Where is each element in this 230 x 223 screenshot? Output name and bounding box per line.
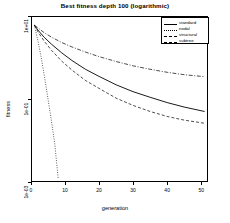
legend-line-sample-icon — [164, 30, 177, 31]
legend-label: nodal — [179, 26, 190, 31]
y-tick-mark — [28, 99, 31, 100]
x-tick-mark — [167, 182, 168, 185]
x-tick-label: 50 — [191, 187, 211, 193]
legend-line-sample-icon — [164, 42, 177, 43]
x-tick-mark — [133, 182, 134, 185]
x-tick-label: 0 — [21, 187, 41, 193]
x-tick-label: 10 — [55, 187, 75, 193]
x-tick-label: 20 — [89, 187, 109, 193]
x-axis-title: generation — [0, 205, 230, 211]
legend-label: subtree — [179, 38, 194, 43]
chart-legend: standardnodalstructuralsubtree — [161, 17, 209, 44]
legend-line-sample-icon — [164, 24, 177, 25]
x-tick-mark — [201, 182, 202, 185]
legend-label: structural — [179, 32, 197, 37]
y-tick-label: 1e-01 — [23, 98, 29, 120]
y-axis-title: fitness — [5, 89, 11, 129]
series-line-nodal — [34, 25, 58, 179]
y-tick-mark — [28, 16, 31, 17]
x-tick-mark — [65, 182, 66, 185]
chart-title: Best fitness depth 100 (logarithmic) — [0, 2, 230, 9]
x-tick-mark — [31, 182, 32, 185]
chart-container: Best fitness depth 100 (logarithmic) 1e+… — [0, 0, 230, 223]
y-tick-label: 1e+01 — [23, 15, 29, 37]
x-tick-mark — [99, 182, 100, 185]
x-tick-label: 40 — [157, 187, 177, 193]
x-tick-label: 30 — [123, 187, 143, 193]
legend-item-subtree: subtree — [164, 39, 208, 45]
legend-line-sample-icon — [164, 36, 177, 37]
legend-label: standard — [179, 20, 196, 25]
